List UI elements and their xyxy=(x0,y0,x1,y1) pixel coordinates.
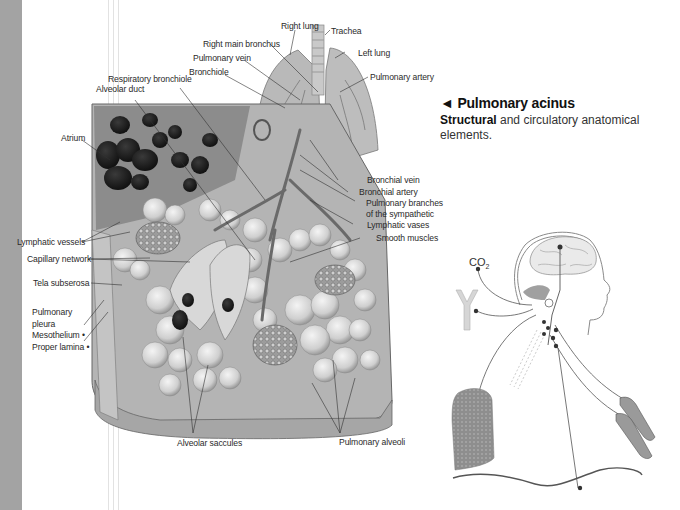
respiratory-control-diagram xyxy=(0,0,680,510)
diaphragm-line xyxy=(453,468,642,486)
co2-label: CO2 xyxy=(469,256,489,270)
co2-text: CO xyxy=(469,256,486,268)
co2-subscript: 2 xyxy=(486,263,490,270)
muscle-icon xyxy=(616,397,655,458)
lung-icon xyxy=(452,389,494,470)
